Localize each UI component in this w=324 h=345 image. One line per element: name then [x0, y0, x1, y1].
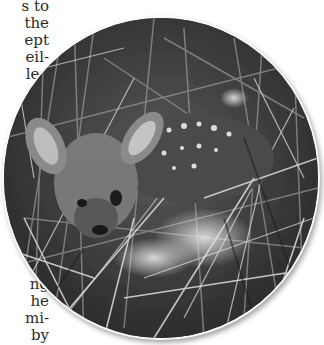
fawn-in-grass-image [4, 18, 318, 338]
body-text-fragment-bottom: ng he mi- by [0, 276, 49, 344]
text-line: mi- [0, 310, 49, 327]
text-line: ept [0, 32, 49, 49]
text-line: the [0, 15, 49, 32]
text-line: s to [0, 0, 49, 15]
text-line: eil- [0, 49, 49, 66]
fawn-photo [2, 16, 320, 340]
text-line: he [0, 293, 49, 310]
text-line: by [0, 327, 49, 344]
